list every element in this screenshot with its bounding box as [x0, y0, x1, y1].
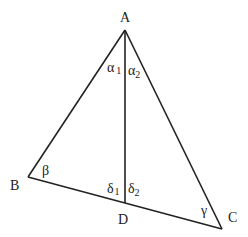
vertex-label-c: C: [228, 210, 237, 225]
angle-alpha2-subscript: 2: [135, 69, 140, 80]
vertex-label-d: D: [118, 212, 128, 227]
angle-label-delta2: δ2: [128, 181, 140, 198]
angle-gamma-symbol: γ: [200, 203, 207, 218]
segment-ac: [125, 30, 222, 229]
angle-alpha1-subscript: 1: [116, 65, 121, 76]
angle-delta2-subscript: 2: [135, 187, 140, 198]
angle-beta-symbol: β: [42, 163, 49, 178]
diagram-canvas: A B C D α1 α2 β γ δ1 δ2: [0, 0, 248, 237]
angle-label-alpha2: α2: [128, 63, 140, 80]
angle-label-gamma: γ: [200, 203, 207, 218]
segment-ab: [28, 30, 125, 177]
triangle-diagram: A B C D α1 α2 β γ δ1 δ2: [0, 0, 248, 237]
angle-alpha1-symbol: α: [107, 60, 115, 75]
angle-delta1-symbol: δ: [107, 181, 114, 196]
angle-label-alpha1: α1: [107, 60, 121, 76]
vertex-label-b: B: [10, 178, 19, 193]
angle-label-delta1: δ1: [107, 181, 120, 197]
angle-delta1-subscript: 1: [115, 186, 120, 197]
angle-label-beta: β: [42, 163, 49, 178]
vertex-label-a: A: [120, 10, 131, 25]
